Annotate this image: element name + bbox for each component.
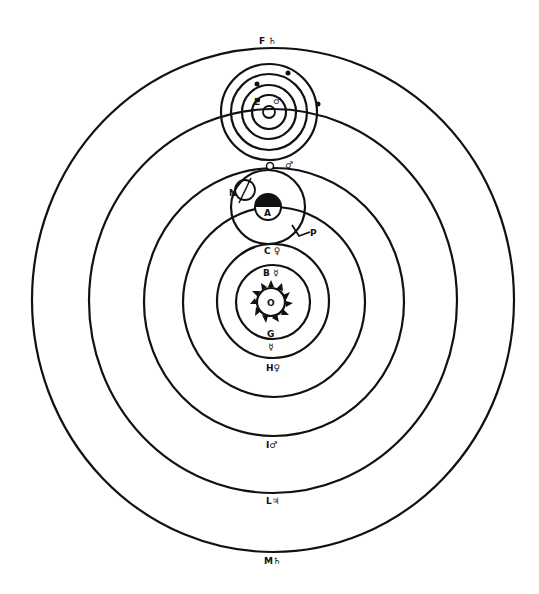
mercury-top-label: B ☿ bbox=[263, 268, 279, 278]
jupiter-bottom-label: L♃ bbox=[266, 496, 280, 506]
saturn-top-label: F ♄ bbox=[259, 36, 276, 46]
saturn-bottom-label: M♄ bbox=[264, 556, 281, 566]
sun-label: O bbox=[267, 298, 275, 308]
point-p-label: P bbox=[310, 228, 317, 238]
mars-marker bbox=[267, 163, 274, 170]
node-label: N bbox=[229, 188, 237, 198]
top-system-ring-3 bbox=[242, 85, 296, 139]
top-system-e-label: E bbox=[254, 97, 260, 107]
mars-bottom-label: I♂ bbox=[266, 440, 277, 450]
venus-bottom-label: H♀ bbox=[266, 363, 280, 373]
p-marker bbox=[292, 225, 310, 236]
top-system-center bbox=[263, 106, 275, 118]
venus-top-label: C ♀ bbox=[264, 246, 280, 256]
mercury-bottom-label: G bbox=[267, 329, 274, 339]
earth: A bbox=[255, 194, 281, 220]
mars-top-symbol: ♂ bbox=[285, 160, 293, 170]
earth-label: A bbox=[264, 208, 271, 218]
top-system-mars-symbol: ♂ bbox=[273, 96, 281, 106]
planetary-diagram: A O E ♂ ♂ F ♄ N P C ♀ B ☿ G ☿ bbox=[0, 0, 539, 594]
sun: O bbox=[250, 280, 293, 323]
mercury-bottom-symbol: ☿ bbox=[268, 342, 274, 352]
